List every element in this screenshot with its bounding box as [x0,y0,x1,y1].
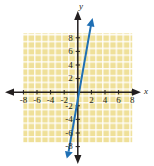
ytick-label-neg4: -4 [61,115,73,124]
ytick-label-neg8: -8 [61,142,73,151]
graph-figure: -8 -6 -4 -2 2 4 6 8 8 6 4 2 -2 -4 -6 -8 … [0,0,154,166]
xtick-label-8: 8 [128,96,136,105]
xtick-label-neg4: -4 [45,96,57,105]
ytick-label-4: 4 [65,61,73,70]
coordinate-plane [0,0,154,166]
xtick-label-4: 4 [101,96,109,105]
xtick-label-neg6: -6 [31,96,43,105]
ytick-label-2: 2 [65,74,73,83]
ytick-label-8: 8 [65,34,73,43]
y-axis-label: y [79,2,83,11]
ytick-label-neg2: -2 [61,102,73,111]
x-axis-label: x [144,87,148,96]
ytick-label-neg6: -6 [61,129,73,138]
ytick-label-6: 6 [65,47,73,56]
xtick-label-2: 2 [87,96,95,105]
xtick-label-6: 6 [115,96,123,105]
xtick-label-neg8: -8 [17,96,29,105]
